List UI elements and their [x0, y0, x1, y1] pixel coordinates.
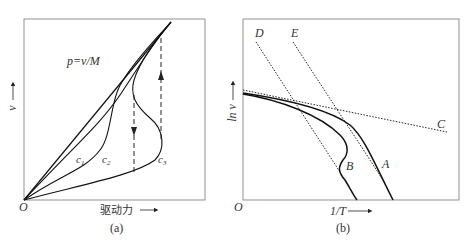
c2-label: c2 [102, 153, 111, 167]
x-label-b: 1/T [330, 204, 347, 218]
c1-label: c1 [76, 153, 84, 167]
line-C [243, 90, 447, 132]
panel-a-frame [24, 19, 205, 200]
curve-B [243, 94, 357, 200]
label-B: B [346, 159, 354, 173]
arrow-down-icon [131, 127, 137, 136]
label-A: A [381, 157, 390, 171]
origin-b: O [234, 200, 243, 214]
label-D: D [254, 26, 264, 40]
svg-text:ln v: ln v [225, 104, 239, 122]
panel-b: D E C B A O 1/T (b) ln v [225, 19, 459, 235]
origin-a: O [19, 200, 28, 214]
line-D [256, 42, 340, 172]
label-E: E [290, 26, 299, 40]
c3-label: c3 [158, 153, 167, 167]
caption-a: (a) [110, 221, 123, 235]
caption-b: (b) [336, 221, 350, 235]
panel-a: p=v/M c1 c2 c3 O 驱动力 (a) v [5, 19, 205, 235]
curve-A [243, 93, 393, 200]
arrow-up-icon [158, 71, 164, 80]
equation-label: p=v/M [66, 54, 101, 68]
y-label-b: ln v [225, 104, 239, 122]
label-C: C [437, 117, 446, 131]
figure: p=v/M c1 c2 c3 O 驱动力 (a) v D E C B A O 1… [0, 0, 471, 245]
line-p-v-m [24, 22, 171, 200]
svg-text:v: v [5, 105, 19, 111]
y-label-a: v [5, 105, 19, 111]
x-label-a: 驱动力 [100, 204, 133, 217]
